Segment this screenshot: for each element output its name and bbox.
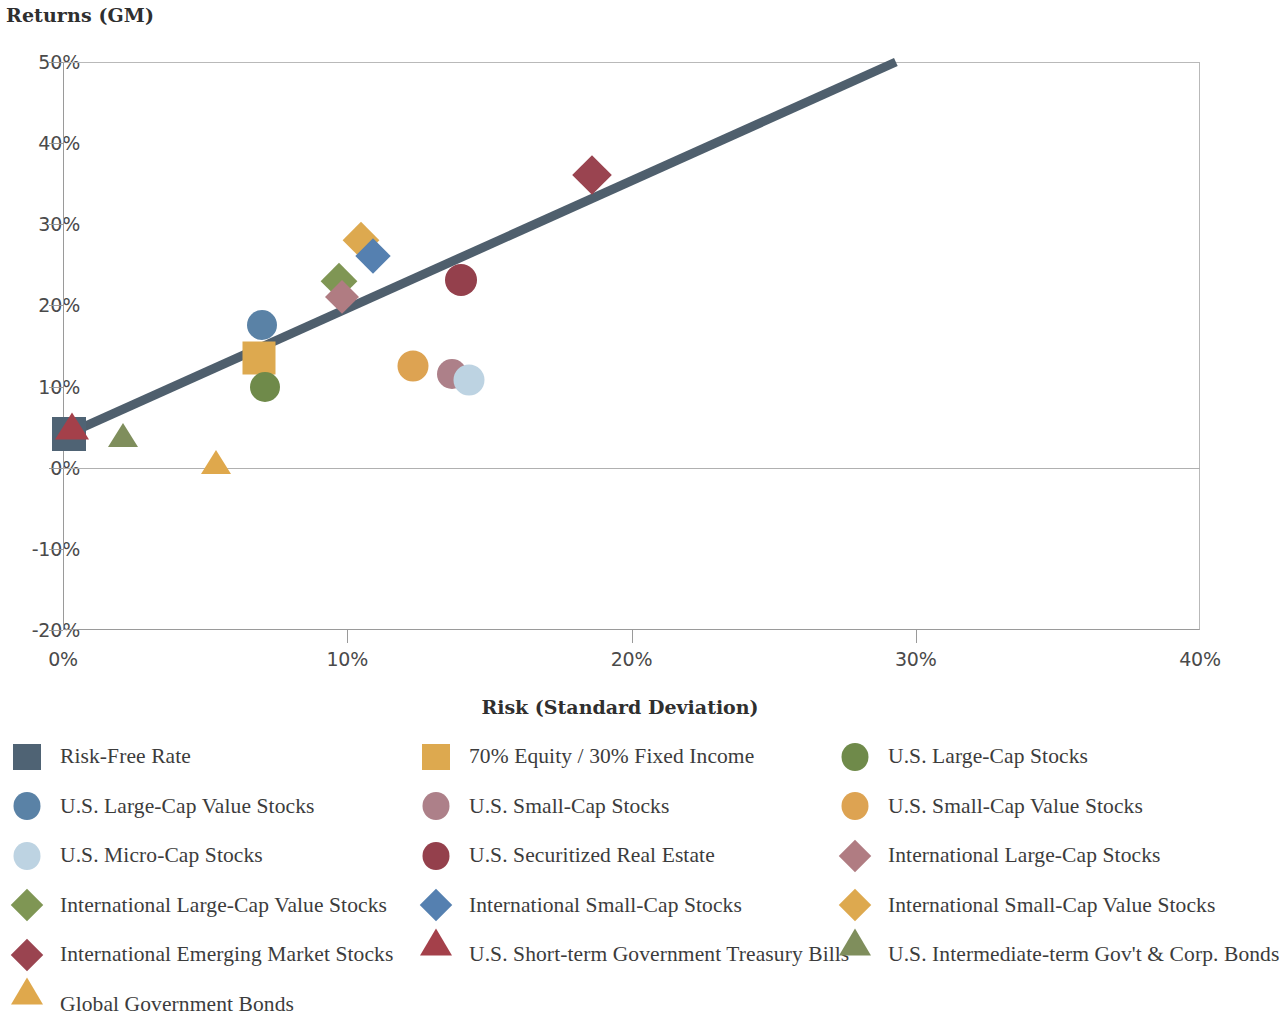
legend-item[interactable]: Global Government Bonds bbox=[12, 980, 422, 1021]
legend-swatch-shape bbox=[11, 889, 44, 922]
legend-item[interactable]: U.S. Securitized Real Estate bbox=[421, 831, 841, 881]
legend-swatch-triangle-icon bbox=[840, 940, 870, 970]
legend-label: U.S. Micro-Cap Stocks bbox=[60, 843, 263, 868]
legend-item[interactable]: U.S. Small-Cap Stocks bbox=[421, 782, 841, 832]
legend-swatch-shape bbox=[420, 889, 453, 922]
legend-swatch-circle-icon bbox=[12, 791, 42, 821]
data-point-marker[interactable] bbox=[108, 423, 138, 447]
legend-swatch-shape bbox=[423, 792, 450, 820]
legend-swatch-shape bbox=[839, 839, 872, 872]
legend-swatch-shape bbox=[422, 744, 450, 770]
chart-legend: Risk-Free Rate70% Equity / 30% Fixed Inc… bbox=[0, 732, 1240, 1021]
legend-swatch-shape bbox=[11, 938, 44, 971]
legend-label: Global Government Bonds bbox=[60, 992, 294, 1017]
legend-swatch-shape bbox=[420, 928, 452, 955]
plot-wrap: 50%40%30%20%10%0%-10%-20%0%10%20%30%40% … bbox=[0, 0, 1240, 730]
trendline-svg bbox=[0, 0, 1240, 730]
legend-row: Global Government Bonds bbox=[0, 980, 1240, 1021]
legend-swatch-diamond-icon bbox=[421, 890, 451, 920]
legend-item[interactable]: U.S. Large-Cap Value Stocks bbox=[12, 782, 422, 832]
legend-swatch-circle-icon bbox=[840, 742, 870, 772]
legend-swatch-triangle-icon bbox=[421, 940, 451, 970]
legend-swatch-diamond-icon bbox=[12, 890, 42, 920]
data-point-marker[interactable] bbox=[55, 413, 89, 440]
data-point-marker[interactable] bbox=[445, 264, 477, 296]
legend-item[interactable]: 70% Equity / 30% Fixed Income bbox=[421, 732, 841, 782]
legend-swatch-circle-icon bbox=[421, 791, 451, 821]
legend-label: International Large-Cap Value Stocks bbox=[60, 893, 387, 918]
legend-label: U.S. Large-Cap Stocks bbox=[888, 744, 1088, 769]
legend-label: U.S. Intermediate-term Gov't & Corp. Bon… bbox=[888, 942, 1279, 967]
legend-item[interactable]: U.S. Large-Cap Stocks bbox=[840, 732, 1240, 782]
legend-label: 70% Equity / 30% Fixed Income bbox=[469, 744, 754, 769]
legend-swatch-shape bbox=[839, 889, 872, 922]
legend-label: International Large-Cap Stocks bbox=[888, 843, 1160, 868]
legend-label: U.S. Securitized Real Estate bbox=[469, 843, 715, 868]
data-point-marker[interactable] bbox=[247, 310, 277, 340]
legend-item[interactable]: International Large-Cap Stocks bbox=[840, 831, 1240, 881]
legend-swatch-diamond-icon bbox=[12, 940, 42, 970]
legend-item[interactable]: International Small-Cap Stocks bbox=[421, 881, 841, 931]
x-axis-title: Risk (Standard Deviation) bbox=[0, 696, 1240, 718]
data-point-marker[interactable] bbox=[454, 365, 485, 396]
legend-label: International Emerging Market Stocks bbox=[60, 942, 393, 967]
legend-swatch-circle-icon bbox=[421, 841, 451, 871]
legend-swatch-diamond-icon bbox=[840, 890, 870, 920]
legend-item[interactable]: International Small-Cap Value Stocks bbox=[840, 881, 1240, 931]
data-point-marker[interactable] bbox=[397, 351, 428, 382]
legend-item[interactable]: U.S. Short-term Government Treasury Bill… bbox=[421, 930, 841, 980]
legend-item[interactable]: U.S. Micro-Cap Stocks bbox=[12, 831, 422, 881]
legend-swatch-shape bbox=[14, 842, 41, 870]
legend-item[interactable]: International Emerging Market Stocks bbox=[12, 930, 422, 980]
legend-row: Risk-Free Rate70% Equity / 30% Fixed Inc… bbox=[0, 732, 1240, 782]
legend-swatch-circle-icon bbox=[12, 841, 42, 871]
data-point-marker[interactable] bbox=[250, 372, 280, 402]
legend-swatch-shape bbox=[11, 978, 43, 1005]
data-point-marker[interactable] bbox=[243, 342, 276, 375]
legend-swatch-shape bbox=[14, 792, 41, 820]
legend-label: International Small-Cap Stocks bbox=[469, 893, 742, 918]
legend-swatch-square-icon bbox=[421, 742, 451, 772]
legend-item[interactable]: U.S. Small-Cap Value Stocks bbox=[840, 782, 1240, 832]
legend-label: U.S. Large-Cap Value Stocks bbox=[60, 794, 315, 819]
legend-row: U.S. Micro-Cap StocksU.S. Securitized Re… bbox=[0, 831, 1240, 881]
legend-swatch-diamond-icon bbox=[840, 841, 870, 871]
legend-swatch-shape bbox=[13, 744, 41, 770]
legend-swatch-shape bbox=[842, 792, 869, 820]
legend-label: U.S. Small-Cap Value Stocks bbox=[888, 794, 1143, 819]
legend-label: U.S. Small-Cap Stocks bbox=[469, 794, 669, 819]
legend-row: International Emerging Market StocksU.S.… bbox=[0, 930, 1240, 980]
legend-swatch-shape bbox=[423, 842, 450, 870]
legend-swatch-square-icon bbox=[12, 742, 42, 772]
legend-row: International Large-Cap Value StocksInte… bbox=[0, 881, 1240, 931]
data-point-marker[interactable] bbox=[201, 450, 231, 474]
legend-label: International Small-Cap Value Stocks bbox=[888, 893, 1215, 918]
legend-item[interactable]: U.S. Intermediate-term Gov't & Corp. Bon… bbox=[840, 930, 1240, 980]
legend-item[interactable]: International Large-Cap Value Stocks bbox=[12, 881, 422, 931]
legend-label: U.S. Short-term Government Treasury Bill… bbox=[469, 942, 849, 967]
legend-swatch-shape bbox=[839, 928, 871, 955]
legend-item[interactable]: Risk-Free Rate bbox=[12, 732, 422, 782]
legend-swatch-shape bbox=[842, 743, 869, 771]
legend-label: Risk-Free Rate bbox=[60, 744, 191, 769]
legend-swatch-triangle-icon bbox=[12, 989, 42, 1019]
legend-swatch-circle-icon bbox=[840, 791, 870, 821]
legend-row: U.S. Large-Cap Value StocksU.S. Small-Ca… bbox=[0, 782, 1240, 832]
